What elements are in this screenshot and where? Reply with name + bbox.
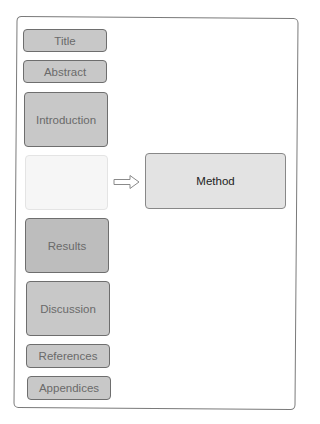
section-placeholder	[25, 155, 108, 210]
section-appendices-label: Appendices	[39, 382, 99, 394]
hollow-right-arrow-icon	[113, 174, 141, 190]
section-abstract-label: Abstract	[44, 66, 86, 78]
section-title: Title	[23, 29, 107, 52]
section-references-label: References	[39, 350, 98, 362]
section-discussion: Discussion	[26, 281, 110, 336]
section-abstract: Abstract	[23, 60, 107, 83]
section-method-label: Method	[196, 175, 234, 187]
section-results-label: Results	[48, 240, 86, 252]
section-method-expanded: Method	[145, 153, 286, 209]
section-introduction: Introduction	[24, 92, 108, 147]
section-results: Results	[25, 218, 109, 273]
section-references: References	[26, 344, 110, 368]
section-title-label: Title	[54, 35, 75, 47]
section-introduction-label: Introduction	[36, 114, 96, 126]
section-discussion-label: Discussion	[40, 303, 96, 315]
section-appendices: Appendices	[27, 376, 111, 400]
